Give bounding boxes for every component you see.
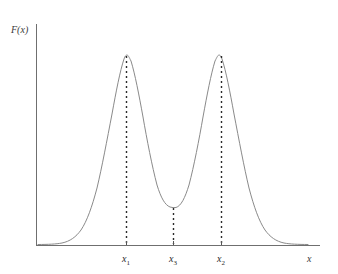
chart-background [0,0,338,274]
bimodal-density-chart: F(x) x x1 x3 x2 [0,0,338,274]
tick-label-x3-subscript: 3 [173,259,177,267]
x-axis-title: x [306,253,312,264]
tick-label-x2-subscript: 2 [221,259,225,267]
figure-container: F(x) x x1 x3 x2 [0,0,338,274]
y-axis-title: F(x) [10,24,29,36]
tick-label-x1-subscript: 1 [126,259,130,267]
